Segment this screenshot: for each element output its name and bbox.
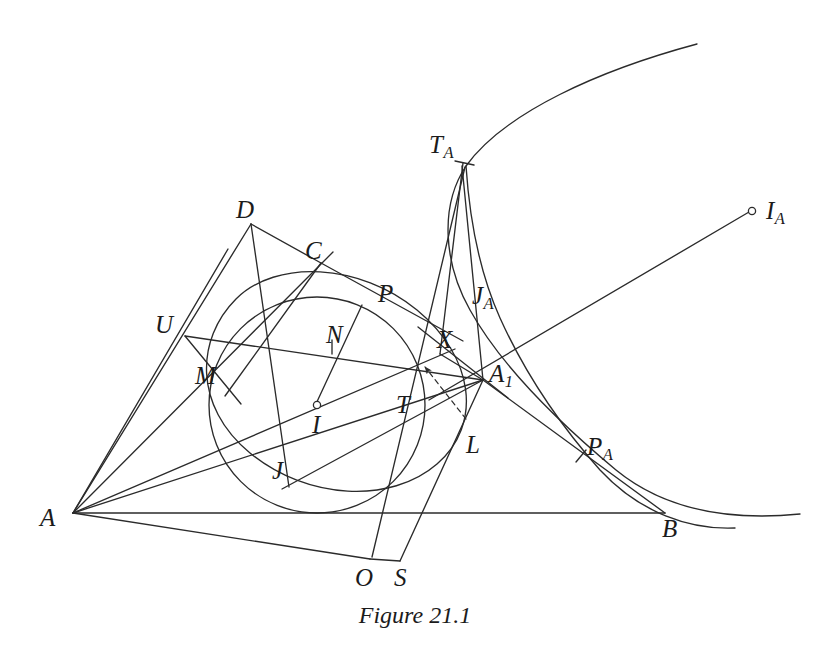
tick-mark-TA (455, 161, 474, 165)
point-marker-I (313, 401, 320, 408)
point-label-C: C (305, 238, 322, 263)
point-label-JA: JA (472, 283, 494, 312)
point-marker-IA (748, 207, 755, 214)
circle-through-JPTX (207, 272, 467, 492)
segment-A1-B (483, 380, 665, 513)
excircle-arc (448, 44, 800, 516)
point-label-IA: IA (766, 198, 785, 227)
point-label-J: J (272, 458, 283, 483)
point-label-T: T (396, 392, 410, 417)
segment-A1-TA (462, 166, 483, 380)
point-label-A: A (40, 505, 55, 530)
point-label-A1: A1 (489, 361, 513, 390)
segment-A-P-X (73, 349, 455, 513)
point-label-M: M (195, 363, 216, 388)
point-label-N: N (326, 322, 343, 347)
point-label-U: U (155, 312, 173, 337)
segment-O-S (370, 559, 400, 561)
segment-AD (73, 224, 251, 513)
point-label-PA: PA (587, 434, 613, 463)
geometry-canvas (0, 0, 830, 669)
geometry-figure: D C U M P N I J T X A1 L TA JA IA PA A B… (0, 0, 830, 669)
segment-A-O (73, 513, 370, 559)
point-label-O: O (355, 565, 373, 590)
point-label-I: I (312, 412, 320, 437)
point-label-S: S (394, 565, 407, 590)
point-label-X: X (437, 327, 452, 352)
point-label-D: D (236, 197, 254, 222)
point-label-P: P (378, 281, 393, 306)
segment-X-A1 (440, 354, 483, 380)
point-label-L: L (466, 432, 480, 457)
point-label-B: B (662, 516, 677, 541)
mixtilinear-arc (466, 166, 735, 528)
point-label-TA: TA (429, 132, 454, 161)
segment-A-A1 (73, 380, 483, 513)
figure-caption: Figure 21.1 (0, 602, 830, 629)
segment-TA-down-through-O (372, 167, 465, 557)
segment-A1-S (400, 380, 483, 561)
segment-DJ (251, 224, 289, 487)
